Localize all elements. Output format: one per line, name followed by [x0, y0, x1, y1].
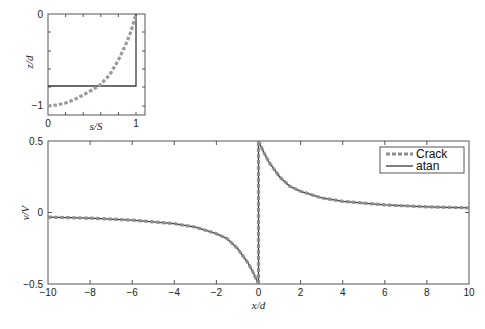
inset-ytick-minus1: −1: [32, 100, 44, 111]
main-ylabel: v/V: [19, 204, 31, 220]
xtick-label: 10: [463, 287, 475, 298]
xtick-label: 8: [424, 287, 430, 298]
inset-crack-line: [48, 14, 136, 106]
figure: 0 −1 0 1 s/S z/d: [0, 0, 485, 329]
xtick-label: 4: [340, 287, 346, 298]
xtick-label: −2: [211, 287, 223, 298]
inset-xtick-0: 0: [45, 118, 51, 129]
xtick-label: 0: [256, 287, 262, 298]
xtick-label: −4: [169, 287, 181, 298]
main-ytick-top: 0.5: [29, 136, 43, 147]
main-ytick-mid: 0: [37, 207, 43, 218]
main-crack-line-left: [48, 217, 259, 284]
xtick-label: −6: [126, 287, 138, 298]
main-xtick-labels: −10 −8 −6 −4 −2 0 2 4 6 8 10: [40, 287, 475, 298]
xtick-label: 6: [382, 287, 388, 298]
inset-xlabel: s/S: [90, 120, 103, 132]
inset-xtick-1: 1: [133, 118, 139, 129]
xtick-label: −8: [84, 287, 96, 298]
inset-ylabel: z/d: [23, 55, 35, 69]
inset-ytick-0: 0: [37, 9, 43, 20]
xtick-label: −10: [40, 287, 57, 298]
main-xlabel: x/d: [251, 299, 266, 311]
xtick-label: 2: [298, 287, 304, 298]
main-plot: 0.5 0 −0.5 −10 −8 −6 −4 −2 0 2 4 6 8 10 …: [19, 136, 475, 311]
legend: Crack atan: [380, 147, 464, 173]
main-atan-line-left: [48, 217, 259, 284]
legend-atan-label: atan: [416, 159, 439, 173]
inset-plot: 0 −1 0 1 s/S z/d: [23, 9, 145, 132]
